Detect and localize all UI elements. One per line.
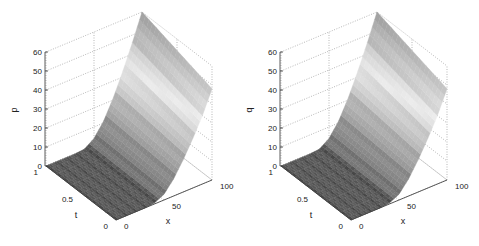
t-axis-label: t: [75, 210, 78, 220]
t-axis-label: t: [310, 210, 313, 220]
z-tick-label: 0: [273, 162, 278, 171]
x-tick-label: 50: [172, 202, 181, 211]
z-tick-label: 0: [38, 162, 43, 171]
x-tick-label: 100: [455, 182, 469, 191]
t-tick-label: 0.5: [62, 195, 74, 204]
surface-plot-q: 0102030405060q00.51t050100x: [235, 0, 475, 246]
z-tick-label: 60: [33, 48, 42, 57]
z-tick-label: 40: [268, 86, 277, 95]
t-tick-label: 1: [269, 168, 274, 177]
surface-plot-p: 0102030405060p00.51t050100x: [0, 0, 240, 246]
surface-mesh: [46, 12, 212, 220]
t-tick-label: 1: [34, 168, 39, 177]
x-tick-label: 50: [407, 202, 416, 211]
z-tick-label: 10: [33, 143, 42, 152]
z-tick-label: 20: [33, 124, 42, 133]
surface-plot-p-canvas: 0102030405060p00.51t050100x: [0, 0, 240, 246]
z-tick-label: 30: [33, 105, 42, 114]
x-tick-label: 0: [359, 222, 364, 231]
t-tick-label: 0: [339, 222, 344, 231]
z-tick-label: 60: [268, 48, 277, 57]
t-tick-label: 0: [104, 222, 109, 231]
x-tick-label: 0: [124, 222, 129, 231]
surface-plot-q-canvas: 0102030405060q00.51t050100x: [235, 0, 475, 246]
z-tick-label: 40: [33, 86, 42, 95]
z-tick-label: 50: [33, 67, 42, 76]
z-tick-label: 10: [268, 143, 277, 152]
x-tick-label: 100: [220, 182, 234, 191]
z-tick-label: 20: [268, 124, 277, 133]
z-axis-label: p: [9, 107, 19, 112]
x-axis-label: x: [401, 216, 406, 226]
x-axis-label: x: [166, 216, 171, 226]
z-tick-label: 50: [268, 67, 277, 76]
t-tick-label: 0.5: [297, 195, 309, 204]
z-axis-label: q: [244, 107, 254, 112]
surface-mesh: [281, 12, 447, 220]
z-tick-label: 30: [268, 105, 277, 114]
